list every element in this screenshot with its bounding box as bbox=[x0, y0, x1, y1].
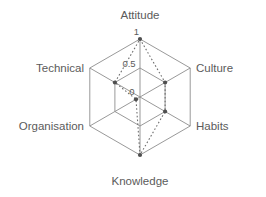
tick-label-one: 1 bbox=[134, 26, 139, 37]
axis-label-technical: Technical bbox=[36, 62, 84, 74]
tick-label-zero: 0 bbox=[129, 86, 134, 97]
axis-label-organisation: Organisation bbox=[19, 120, 84, 132]
data-point-knowledge bbox=[138, 153, 142, 157]
radar-chart-container: 1 0.5 0 Attitude Culture Habits Knowledg… bbox=[0, 0, 266, 197]
hexagon-radar-chart: 1 0.5 0 Attitude Culture Habits Knowledg… bbox=[0, 0, 266, 197]
data-point-technical bbox=[113, 80, 117, 84]
tick-label-half: 0.5 bbox=[122, 58, 135, 69]
data-point-habits bbox=[163, 109, 167, 113]
axis-label-attitude: Attitude bbox=[121, 9, 160, 21]
axis-label-habits: Habits bbox=[196, 120, 229, 132]
data-point-culture bbox=[163, 80, 167, 84]
axis-label-knowledge: Knowledge bbox=[112, 175, 169, 187]
data-point-attitude bbox=[138, 37, 142, 41]
axis-label-culture: Culture bbox=[196, 62, 233, 74]
data-point-organisation bbox=[134, 97, 138, 101]
